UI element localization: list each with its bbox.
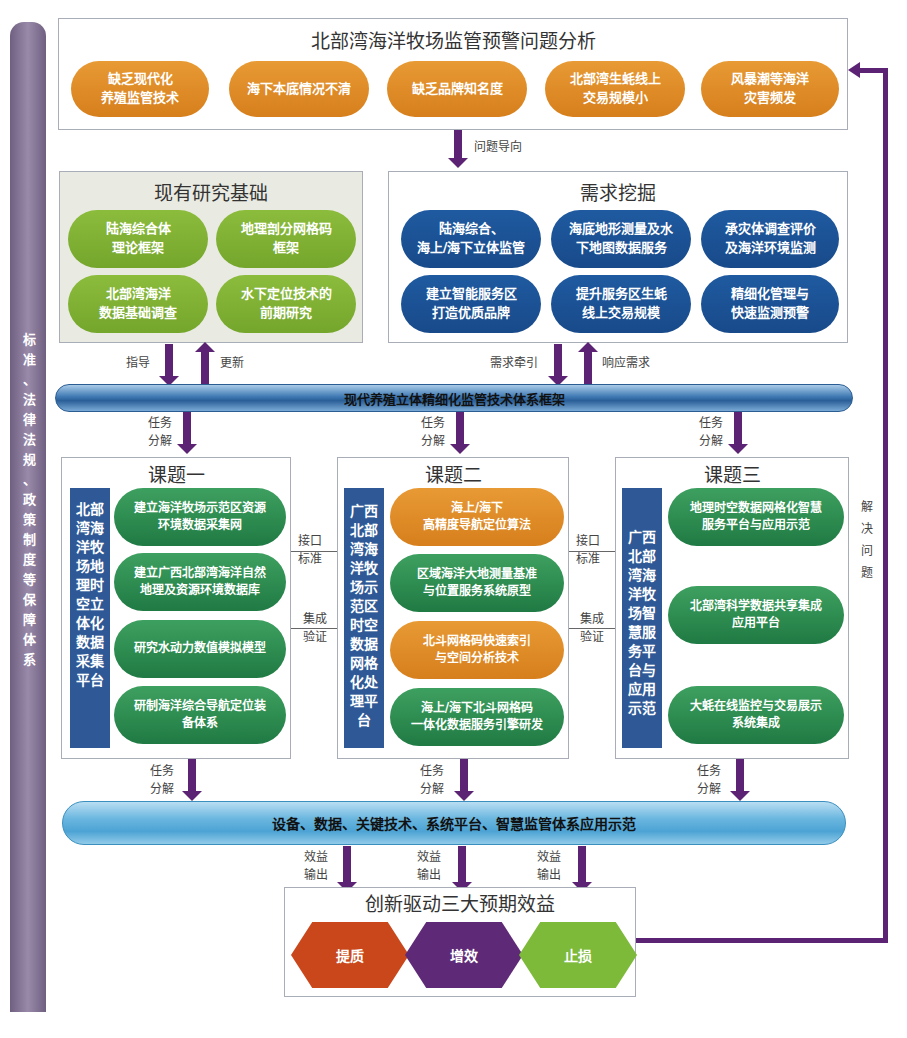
respond-demand-arrow xyxy=(584,350,592,384)
feedback-line-top xyxy=(858,68,888,73)
interface-label-2: 接口 标准 xyxy=(576,532,600,568)
topic-2-panel: 课题二 广西 北部 湾海 洋牧 场示 范区 时空 数据 网格 化处 理平 台 海… xyxy=(337,457,569,759)
topic-2-title: 课题二 xyxy=(338,460,568,487)
demand-item: 承灾体调查评价 及海洋环境监测 xyxy=(701,210,839,268)
problem-analysis-title: 北部湾海洋牧场监管预警问题分析 xyxy=(59,26,847,53)
topic-3-platform: 广西 北部 湾海 洋牧 场智 慧服 务平 台与 应用 示范 xyxy=(622,488,662,748)
problem-item: 风暴潮等海洋 灾害频发 xyxy=(701,61,839,117)
demand-mining-title: 需求挖掘 xyxy=(389,178,847,205)
problem-oriented-label: 问题导向 xyxy=(474,138,522,156)
benefit-arrow-3 xyxy=(578,846,586,884)
task-arrow-6 xyxy=(736,759,744,793)
demand-item: 提升服务区生蚝 线上交易规模 xyxy=(551,275,691,333)
benefit-quality: 提质 xyxy=(291,922,409,988)
benefit-label-2: 效益 输出 xyxy=(417,848,441,884)
benefit-arrow-2 xyxy=(458,846,466,884)
topic-1-item: 建立海洋牧场示范区资源 环境数据采集网 xyxy=(114,488,286,546)
demand-pull-label: 需求牵引 xyxy=(490,354,538,372)
task-label-6: 任务 分解 xyxy=(697,762,721,798)
benefit-arrow-1 xyxy=(343,846,351,884)
topic-3-item: 大蚝在线监控与交易展示 系统集成 xyxy=(668,686,844,744)
task-label-2: 任务 分解 xyxy=(421,414,445,450)
demand-mining-panel: 需求挖掘 陆海综合、 海上/海下立体监管 海底地形测量及水 下地图数据服务 承灾… xyxy=(388,171,848,343)
topic-2-item: 区域海洋大地测量基准 与位置服务系统原型 xyxy=(390,554,564,612)
feedback-line-vertical xyxy=(883,68,888,943)
task-label-3: 任务 分解 xyxy=(699,414,723,450)
guide-label: 指导 xyxy=(126,354,150,372)
update-label: 更新 xyxy=(220,354,244,372)
topic-1-platform: 北部 湾海 洋牧 场地 理时 空立 体化 数据 采集 平台 xyxy=(70,488,110,748)
feedback-line-horizontal xyxy=(636,938,888,943)
problem-item: 北部湾生蚝线上 交易规模小 xyxy=(545,61,685,117)
research-foundation-panel: 现有研究基础 陆海综合体 理论框架 地理剖分网格码 框架 北部湾海洋 数据基础调… xyxy=(59,171,363,343)
demand-item: 建立智能服务区 打造优质品牌 xyxy=(401,275,541,333)
topic-1-item: 研究水动力数值模拟模型 xyxy=(114,620,286,678)
benefits-panel: 创新驱动三大预期效益 提质 增效 止损 xyxy=(284,887,636,997)
problem-analysis-panel: 北部湾海洋牧场监管预警问题分析 缺乏现代化 养殖监管技术 海下本底情况不清 缺乏… xyxy=(58,18,848,130)
topic-1-item: 研制海洋综合导航定位装 备体系 xyxy=(114,686,286,744)
integrate-label-1: 集成 验证 xyxy=(303,610,327,646)
update-arrow xyxy=(201,350,209,384)
topic-3-panel: 课题三 广西 北部 湾海 洋牧 场智 慧服 务平 台与 应用 示范 地理时空数据… xyxy=(615,457,849,759)
application-pipe: 设备、数据、关键技术、系统平台、智慧监管体系应用示范 xyxy=(62,801,846,845)
topic-1-title: 课题一 xyxy=(62,460,290,487)
demand-pull-arrow xyxy=(554,344,562,378)
integrate-label-2: 集成 验证 xyxy=(580,610,604,646)
topic-3-item: 北部湾科学数据共享集成 应用平台 xyxy=(668,586,844,644)
research-item: 地理剖分网格码 框架 xyxy=(216,210,356,268)
research-item: 北部湾海洋 数据基础调查 xyxy=(68,275,208,333)
demand-item: 陆海综合、 海上/海下立体监管 xyxy=(401,210,541,268)
problem-item: 缺乏品牌知名度 xyxy=(387,61,527,117)
task-arrow-2 xyxy=(456,412,464,446)
benefit-label-3: 效益 输出 xyxy=(537,848,561,884)
task-arrow-3 xyxy=(734,412,742,446)
task-arrow-5 xyxy=(460,759,468,793)
guarantee-system-label: 标 准 、 法 律 法 规 、 政 策 制 度 等 保 障 体 系 xyxy=(20,330,38,670)
framework-pipe: 现代养殖立体精细化监管技术体系框架 xyxy=(55,384,853,412)
task-label-5: 任务 分解 xyxy=(420,762,444,798)
problem-item: 缺乏现代化 养殖监管技术 xyxy=(71,61,209,117)
research-item: 水下定位技术的 前期研究 xyxy=(216,275,356,333)
interface-label-1: 接口 标准 xyxy=(298,532,322,568)
benefits-title: 创新驱动三大预期效益 xyxy=(285,889,635,916)
topic-2-platform: 广西 北部 湾海 洋牧 场示 范区 时空 数据 网格 化处 理平 台 xyxy=(344,488,384,748)
problem-oriented-arrow xyxy=(454,130,462,160)
task-arrow-4 xyxy=(188,759,196,793)
topic-3-item: 地理时空数据网格化智慧 服务平台与应用示范 xyxy=(668,488,844,546)
topic-1-panel: 课题一 北部 湾海 洋牧 场地 理时 空立 体化 数据 采集 平台 建立海洋牧场… xyxy=(61,457,291,759)
task-label-1: 任务 分解 xyxy=(148,414,172,450)
topic-1-item: 建立广西北部湾海洋自然 地理及资源环境数据库 xyxy=(114,553,286,611)
research-item: 陆海综合体 理论框架 xyxy=(68,210,208,268)
topic-2-item: 北斗网格码快速索引 与空间分析技术 xyxy=(390,621,564,679)
guide-arrow xyxy=(165,344,173,378)
benefit-label-1: 效益 输出 xyxy=(304,848,328,884)
topic-3-title: 课题三 xyxy=(616,460,848,487)
feedback-arrowhead xyxy=(848,62,860,78)
solve-problem-label: 解 决 问 题 xyxy=(861,496,875,584)
demand-item: 精细化管理与 快速监测预警 xyxy=(701,275,839,333)
task-arrow-1 xyxy=(183,412,191,446)
respond-demand-label: 响应需求 xyxy=(602,354,650,372)
topic-2-item: 海上/海下 高精度导航定位算法 xyxy=(390,488,564,546)
demand-item: 海底地形测量及水 下地图数据服务 xyxy=(551,210,691,268)
research-foundation-title: 现有研究基础 xyxy=(60,178,362,205)
task-label-4: 任务 分解 xyxy=(150,762,174,798)
benefit-loss-prevention: 止损 xyxy=(519,922,637,988)
benefit-efficiency: 增效 xyxy=(405,922,523,988)
topic-2-item: 海上/海下北斗网格码 一体化数据服务引擎研发 xyxy=(390,688,564,746)
problem-item: 海下本底情况不清 xyxy=(229,61,369,117)
